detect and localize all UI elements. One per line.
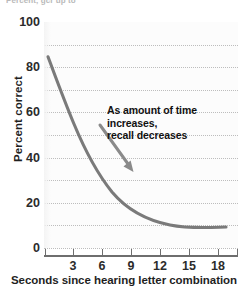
x-axis-title: Seconds since hearing letter combination [0, 274, 248, 286]
annotation-text: As amount of time increases, recall decr… [107, 104, 239, 142]
x-tick-18 [218, 249, 219, 256]
x-tick-label-6: 6 [87, 259, 117, 273]
x-tick-label-18: 18 [203, 259, 233, 273]
x-tick-6 [102, 249, 103, 256]
chart-overlay [0, 0, 248, 290]
x-tick-label-15: 15 [174, 259, 204, 273]
x-tick-end [237, 249, 238, 256]
x-tick-label-3: 3 [58, 259, 88, 273]
chart-figure: Percent, gcr up to 100 80 60 40 20 0 Per… [0, 0, 248, 290]
x-tick-label-9: 9 [116, 259, 146, 273]
x-tick-3 [73, 249, 74, 256]
data-curve [48, 57, 226, 228]
x-tick-start [45, 249, 46, 256]
annotation-line-1: As amount of time increases, [107, 104, 239, 129]
x-tick-9 [131, 249, 132, 256]
annotation-line-2: recall decreases [107, 129, 239, 142]
x-tick-12 [160, 249, 161, 256]
x-tick-label-12: 12 [145, 259, 175, 273]
x-tick-15 [189, 249, 190, 256]
